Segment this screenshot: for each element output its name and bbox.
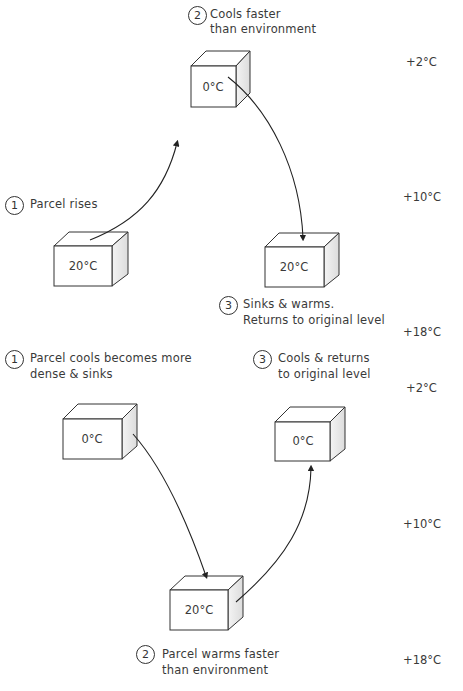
cube-temp-label: 0°C [183,80,243,94]
step-2-line1: Parcel warms faster [162,647,279,662]
arrow-returns [236,468,311,602]
env-temp-bottom: +18°C [403,653,441,667]
cube-temp-label: 0°C [62,432,122,446]
cube-temp-label: 20°C [264,260,324,274]
step-number-2: 2 [188,6,207,25]
env-temp-middle: +10°C [403,517,441,531]
arrow-rise [90,143,177,240]
env-temp-top: +2°C [406,381,437,395]
cube-temp-label: 0°C [273,434,333,448]
cube-temp-label: 20°C [169,603,229,617]
step-3-line1: Cools & returns [278,351,370,366]
step-2-line2: than environment [210,22,316,37]
diagram-graphics [0,0,463,691]
env-temp-bottom: +18°C [403,325,441,339]
arrow-sinks [133,434,206,576]
step-3-line2: Returns to original level [243,313,385,328]
cube-temp-label: 20°C [53,259,113,273]
step-1-label: Parcel rises [30,197,98,212]
step-1-line1: Parcel cools becomes more [30,351,192,366]
cube-top-center [191,51,250,107]
step-number-1: 1 [5,196,24,215]
step-number-3: 3 [253,350,272,369]
step-3-line2: to original level [278,367,371,382]
step-2-line2: than environment [162,663,268,678]
step-number-2: 2 [136,645,155,664]
step-number-1: 1 [5,350,24,369]
env-temp-middle: +10°C [403,190,441,204]
env-temp-top: +2°C [406,55,437,69]
step-1-line2: dense & sinks [30,367,113,382]
step-2-line1: Cools faster [210,7,281,22]
step-3-line1: Sinks & warms. [243,297,334,312]
step-number-3: 3 [219,296,238,315]
